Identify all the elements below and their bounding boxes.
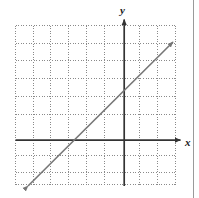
y-axis-label: y bbox=[118, 4, 125, 16]
coordinate-plane-figure: x y bbox=[0, 0, 199, 198]
coordinate-plane-svg: x y bbox=[0, 0, 199, 198]
figure-background bbox=[0, 0, 199, 198]
page-edge-rule bbox=[193, 0, 194, 198]
x-axis-label: x bbox=[184, 136, 191, 148]
